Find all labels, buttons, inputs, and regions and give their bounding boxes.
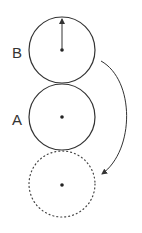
circle-ghost-center-dot	[60, 183, 64, 187]
circle-b	[29, 17, 95, 83]
rolling-circles-diagram: B A	[0, 0, 142, 233]
circle-a-center-dot	[60, 115, 64, 119]
label-a: A	[12, 111, 22, 128]
curved-arrow-icon	[101, 61, 127, 174]
circle-a	[29, 84, 95, 150]
label-b: B	[12, 44, 22, 61]
circle-ghost-dotted	[29, 151, 95, 217]
